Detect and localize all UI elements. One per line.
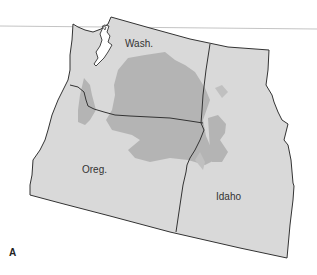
top-rule-line [0,26,317,29]
label-idaho: Idaho [216,191,241,202]
label-oregon: Oreg. [82,164,107,175]
map-figure [0,0,317,275]
label-washington: Wash. [125,38,153,49]
panel-label: A [9,247,16,258]
